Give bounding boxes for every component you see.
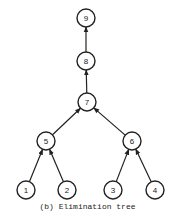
figure-caption: (b) Elimination tree xyxy=(0,202,175,211)
svg-text:7: 7 xyxy=(85,98,90,107)
elimination-tree-diagram: 987561234 xyxy=(0,0,175,217)
svg-text:5: 5 xyxy=(44,137,49,146)
svg-text:2: 2 xyxy=(65,186,70,195)
tree-nodes: 987561234 xyxy=(17,9,164,199)
edge-2-to-5 xyxy=(50,149,64,181)
tree-node-7: 7 xyxy=(78,93,96,111)
svg-text:8: 8 xyxy=(84,57,89,66)
svg-text:3: 3 xyxy=(111,186,116,195)
tree-node-5: 5 xyxy=(37,132,55,150)
tree-node-6: 6 xyxy=(123,132,141,150)
edge-4-to-6 xyxy=(136,149,151,182)
tree-node-9: 9 xyxy=(77,9,95,27)
svg-text:4: 4 xyxy=(153,186,158,195)
tree-node-2: 2 xyxy=(58,181,76,199)
svg-text:9: 9 xyxy=(84,14,89,23)
edge-6-to-7 xyxy=(94,108,125,135)
edge-3-to-6 xyxy=(116,149,128,181)
tree-node-1: 1 xyxy=(17,181,35,199)
tree-node-3: 3 xyxy=(104,181,122,199)
tree-node-8: 8 xyxy=(77,52,95,70)
edge-7-to-8 xyxy=(86,70,87,93)
svg-text:6: 6 xyxy=(130,137,135,146)
svg-text:1: 1 xyxy=(24,186,29,195)
tree-node-4: 4 xyxy=(146,181,164,199)
edge-1-to-5 xyxy=(29,149,42,181)
edge-5-to-7 xyxy=(53,108,81,135)
